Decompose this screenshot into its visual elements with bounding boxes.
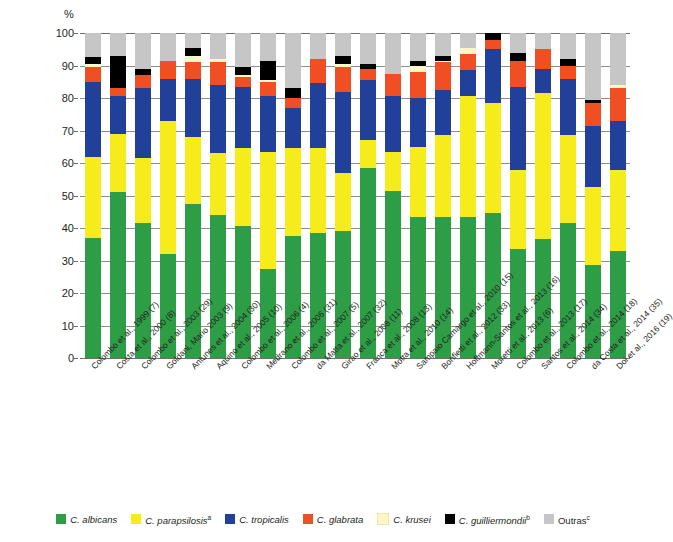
bar-segment-c-tropicalis bbox=[335, 92, 351, 173]
bar-segment-c-krusei bbox=[410, 66, 426, 73]
y-tick-label-70: 70 bbox=[48, 126, 74, 137]
bar-segment-c-parapsilosis bbox=[160, 121, 176, 254]
bar-segment-c-krusei bbox=[460, 48, 476, 55]
bar-segment-outras bbox=[335, 33, 351, 56]
bar-segment-c-tropicalis bbox=[160, 79, 176, 121]
bar-segment-outras bbox=[110, 33, 126, 56]
bar-1[interactable] bbox=[85, 33, 101, 358]
legend-item-6[interactable]: C. guilliermondiib bbox=[445, 512, 530, 526]
bar-segment-c-tropicalis bbox=[260, 96, 276, 151]
legend-item-4[interactable]: C. glabrata bbox=[303, 514, 363, 525]
bar-segment-c-parapsilosis bbox=[585, 187, 601, 265]
bar-segment-c-parapsilosis bbox=[460, 96, 476, 216]
y-tick-mark-100 bbox=[74, 33, 78, 34]
legend-item-3[interactable]: C. tropicalis bbox=[225, 514, 289, 525]
legend-item-2[interactable]: C. parapsilosisa bbox=[131, 512, 211, 526]
bar-segment-c-krusei bbox=[85, 64, 101, 67]
bar-segment-c-guilliermondii bbox=[360, 64, 376, 69]
bar-segment-c-guilliermondii bbox=[285, 88, 301, 98]
bar-segment-outras bbox=[585, 33, 601, 100]
bar-2[interactable] bbox=[110, 33, 126, 358]
legend-swatch-icon bbox=[445, 514, 455, 524]
bar-segment-c-glabrata bbox=[435, 62, 451, 90]
bar-segment-c-glabrata bbox=[560, 66, 576, 79]
bar-segment-c-glabrata bbox=[385, 74, 401, 97]
bar-segment-c-krusei bbox=[185, 56, 201, 63]
bar-segment-c-parapsilosis bbox=[210, 153, 226, 215]
bar-segment-c-glabrata bbox=[360, 69, 376, 80]
bar-segment-c-tropicalis bbox=[535, 69, 551, 93]
bar-segment-c-glabrata bbox=[210, 62, 226, 85]
y-tick-label-0: 0 bbox=[48, 353, 74, 364]
legend-swatch-icon bbox=[225, 514, 235, 524]
y-tick-label-100: 100 bbox=[48, 28, 74, 39]
bar-segment-c-tropicalis bbox=[185, 79, 201, 138]
y-tick-mark-60 bbox=[74, 163, 78, 164]
bar-segment-c-tropicalis bbox=[460, 70, 476, 96]
bar-segment-c-parapsilosis bbox=[185, 137, 201, 204]
bar-segment-c-tropicalis bbox=[610, 121, 626, 170]
y-tick-label-90: 90 bbox=[48, 61, 74, 72]
bar-segment-c-glabrata bbox=[110, 88, 126, 96]
y-tick-label-10: 10 bbox=[48, 321, 74, 332]
legend-label: C. parapsilosisa bbox=[145, 512, 211, 526]
bar-segment-outras bbox=[560, 33, 576, 59]
legend-swatch-icon bbox=[544, 514, 554, 524]
bar-segment-c-parapsilosis bbox=[385, 152, 401, 191]
bar-segment-c-parapsilosis bbox=[135, 158, 151, 223]
bar-segment-c-parapsilosis bbox=[560, 135, 576, 223]
bar-segment-c-guilliermondii bbox=[260, 61, 276, 81]
bar-segment-c-guilliermondii bbox=[85, 57, 101, 64]
bar-segment-c-glabrata bbox=[610, 88, 626, 121]
bar-segment-c-parapsilosis bbox=[260, 152, 276, 269]
bar-segment-c-glabrata bbox=[285, 98, 301, 108]
bar-segment-c-guilliermondii bbox=[560, 59, 576, 66]
bar-segment-c-tropicalis bbox=[410, 98, 426, 147]
y-tick-mark-80 bbox=[74, 98, 78, 99]
y-tick-mark-0 bbox=[74, 358, 78, 359]
bar-segment-c-parapsilosis bbox=[285, 148, 301, 236]
legend-swatch-icon bbox=[131, 514, 141, 524]
bar-segment-c-guilliermondii bbox=[585, 100, 601, 103]
bar-segment-c-glabrata bbox=[460, 54, 476, 70]
bar-segment-c-parapsilosis bbox=[510, 170, 526, 250]
legend-item-7[interactable]: Outrasc bbox=[544, 512, 590, 526]
bar-segment-c-glabrata bbox=[510, 61, 526, 87]
bar-segment-c-guilliermondii bbox=[410, 61, 426, 66]
bar-segment-outras bbox=[410, 33, 426, 61]
bar-segment-outras bbox=[310, 33, 326, 59]
bar-segment-c-krusei bbox=[610, 85, 626, 88]
bar-segment-c-parapsilosis bbox=[485, 103, 501, 214]
bar-segment-c-glabrata bbox=[85, 67, 101, 82]
bar-segment-outras bbox=[460, 33, 476, 48]
bar-segment-c-glabrata bbox=[135, 75, 151, 88]
bar-segment-outras bbox=[610, 33, 626, 85]
bar-segment-outras bbox=[135, 33, 151, 69]
chart-legend: C. albicansC. parapsilosisaC. tropicalis… bbox=[0, 512, 646, 526]
bar-segment-c-tropicalis bbox=[510, 87, 526, 170]
bar-segment-outras bbox=[260, 33, 276, 61]
bar-segment-c-krusei bbox=[235, 75, 251, 77]
bar-segment-c-glabrata bbox=[535, 49, 551, 69]
legend-swatch-icon bbox=[377, 513, 389, 525]
bar-segment-outras bbox=[385, 33, 401, 74]
legend-item-1[interactable]: C. albicans bbox=[56, 514, 117, 525]
bar-segment-c-glabrata bbox=[310, 59, 326, 83]
bar-segment-c-guilliermondii bbox=[435, 56, 451, 61]
bar-segment-c-tropicalis bbox=[210, 85, 226, 153]
bar-segment-c-guilliermondii bbox=[135, 69, 151, 76]
bar-segment-c-tropicalis bbox=[310, 83, 326, 148]
bar-segment-c-glabrata bbox=[260, 82, 276, 97]
bar-segment-c-parapsilosis bbox=[335, 173, 351, 232]
bar-segment-c-parapsilosis bbox=[85, 157, 101, 238]
legend-item-5[interactable]: C. krusei bbox=[377, 513, 430, 525]
y-tick-mark-30 bbox=[74, 261, 78, 262]
bar-segment-c-tropicalis bbox=[560, 79, 576, 136]
y-tick-mark-50 bbox=[74, 196, 78, 197]
bar-segment-c-glabrata bbox=[335, 67, 351, 91]
legend-label: C. glabrata bbox=[317, 514, 363, 525]
bar-segment-c-tropicalis bbox=[435, 90, 451, 136]
bar-segment-outras bbox=[235, 33, 251, 67]
bar-segment-c-tropicalis bbox=[585, 126, 601, 188]
legend-swatch-icon bbox=[56, 514, 66, 524]
